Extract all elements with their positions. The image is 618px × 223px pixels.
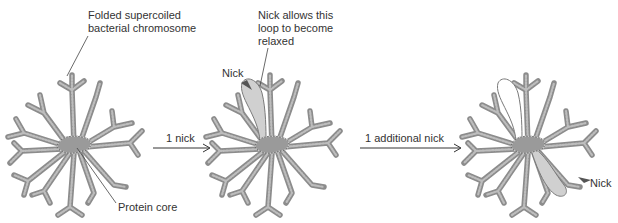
relaxed-loop-label: Nick allows this loop to become relaxed xyxy=(258,9,333,48)
arrow-additional-nick xyxy=(360,144,461,152)
one-loop-relaxed-chromosome xyxy=(206,75,340,215)
protein-core-label: Protein core xyxy=(118,201,177,214)
two-loops-relaxed-chromosome xyxy=(462,75,596,215)
arrow-1-nick xyxy=(153,144,210,152)
transition-label-1: 1 nick xyxy=(166,132,195,145)
supercoiled-chromosome xyxy=(8,75,142,215)
relaxed-loop-leader-line xyxy=(260,48,268,86)
chromosome-label: Folded supercoiled bacterial chromosome xyxy=(88,9,196,35)
nick-label-2: Nick xyxy=(590,177,611,190)
nick-label-1: Nick xyxy=(222,67,243,80)
chromosome-leader-line xyxy=(67,36,88,76)
nicked-chromosome-diagram: Folded supercoiled bacterial chromosome … xyxy=(0,0,618,223)
relaxed-loop-new xyxy=(532,149,566,196)
transition-label-2: 1 additional nick xyxy=(365,132,444,145)
protein-core-leader-line xyxy=(77,148,116,203)
